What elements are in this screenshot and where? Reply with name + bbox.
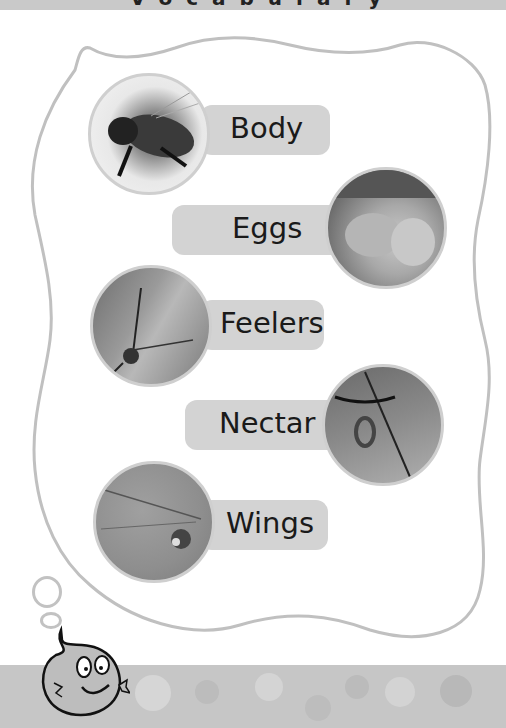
wings-photo: [93, 461, 215, 583]
smiling-blob-mascot-icon: [34, 625, 130, 725]
word-pill: Body: [200, 105, 330, 155]
feelers-photo: [90, 265, 212, 387]
word-label: Eggs: [232, 211, 302, 245]
word-pill: Feelers: [200, 300, 324, 350]
word-label: Nectar: [219, 406, 316, 440]
word-pill: Wings: [200, 500, 328, 550]
word-label: Body: [230, 111, 303, 145]
nectar-photo: [322, 364, 444, 486]
bee-photo: [88, 73, 210, 195]
word-label: Wings: [226, 506, 314, 540]
word-pill: Nectar: [185, 400, 345, 450]
thought-bubble-large: [32, 576, 62, 608]
word-label: Feelers: [220, 306, 324, 340]
eggs-photo: [325, 167, 447, 289]
